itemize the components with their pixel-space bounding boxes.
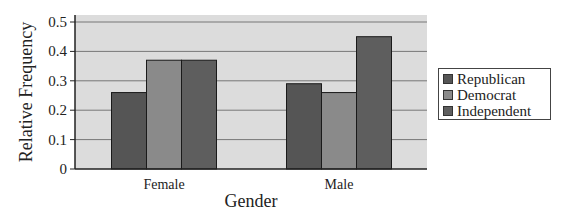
legend-swatch-republican xyxy=(443,74,453,84)
legend-swatch-democrat xyxy=(443,90,453,100)
y-tick-label: 0.4 xyxy=(48,43,67,59)
y-tick-label: 0.3 xyxy=(48,73,67,89)
legend-swatch-independent xyxy=(443,106,453,116)
legend-item-independent: Independent xyxy=(443,103,546,119)
x-tick-label: Female xyxy=(143,177,184,192)
bar-male-independent xyxy=(357,37,392,169)
bar-male-democrat xyxy=(322,93,357,169)
legend-label: Democrat xyxy=(457,87,516,103)
y-tick-label: 0.5 xyxy=(48,14,67,30)
bar-female-republican xyxy=(112,93,147,169)
x-axis-tick-labels: FemaleMale xyxy=(143,177,353,192)
legend: Republican Democrat Independent xyxy=(438,68,551,120)
bar-female-independent xyxy=(182,60,217,169)
y-tick-label: 0.1 xyxy=(48,132,67,148)
legend-item-democrat: Democrat xyxy=(443,87,546,103)
legend-item-republican: Republican xyxy=(443,71,546,87)
y-axis-label: Relative Frequency xyxy=(16,22,36,162)
legend-label: Republican xyxy=(457,71,525,87)
x-axis-label: Gender xyxy=(225,191,278,211)
bar-female-democrat xyxy=(147,60,182,169)
x-tick-label: Male xyxy=(325,177,354,192)
y-tick-label: 0.2 xyxy=(48,102,67,118)
y-tick-label: 0 xyxy=(60,161,68,177)
y-axis-ticks: 00.10.20.30.40.5 xyxy=(48,14,75,177)
bar-male-republican xyxy=(287,84,322,169)
legend-label: Independent xyxy=(457,103,531,119)
